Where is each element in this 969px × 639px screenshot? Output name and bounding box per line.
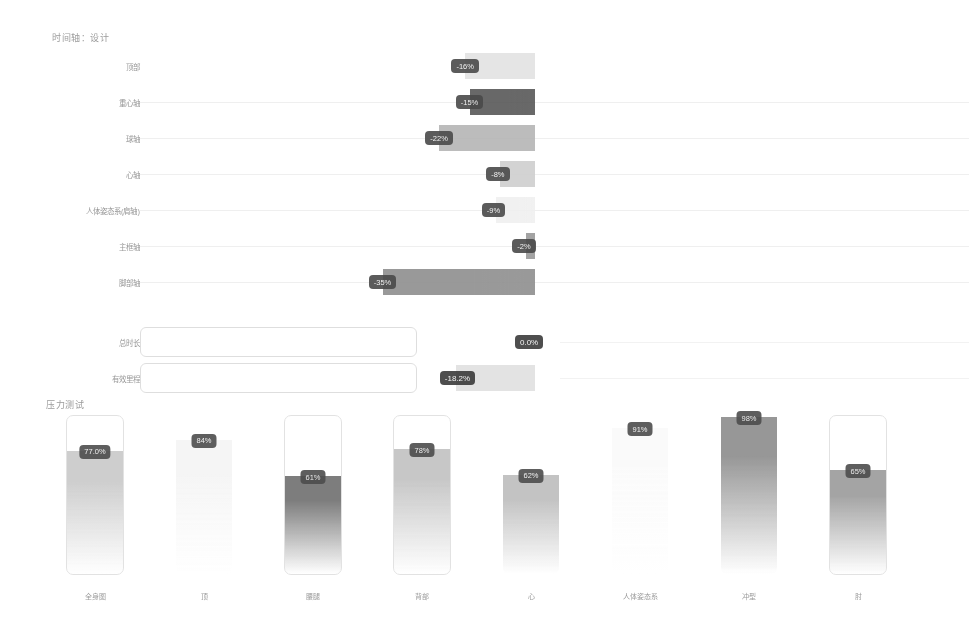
gauge-value-label: 65%	[845, 464, 870, 478]
gauge-value-label: 84%	[191, 434, 216, 448]
bar-category-label: 重心轴	[20, 97, 140, 108]
gauge: 98%冲型	[720, 415, 778, 575]
gridline	[560, 342, 969, 343]
bar-row: 人体姿态系(肩轴)-9%	[0, 192, 969, 228]
gridline	[140, 102, 969, 103]
bar-value-label: -9%	[482, 203, 505, 217]
gauge-category-label: 心	[528, 591, 535, 601]
bar-category-label: 球轴	[20, 133, 140, 144]
gauge-value-label: 77.0%	[79, 445, 110, 459]
top-section-title: 时间轴：设计	[52, 31, 109, 44]
gauge-category-label: 顶	[201, 591, 208, 601]
gauge-value-label: 78%	[409, 443, 434, 457]
gauge-value-label: 62%	[518, 469, 543, 483]
bar-category-label: 人体姿态系(肩轴)	[20, 205, 140, 216]
gauge: 84%顶	[175, 415, 233, 575]
gridline	[140, 174, 969, 175]
gridline	[140, 210, 969, 211]
framed-metric-rows: 总时长0.0%有效里程-18.2%	[0, 325, 969, 395]
bar-value-label: -16%	[451, 59, 479, 73]
gridline	[140, 246, 969, 247]
bar-row: 重心轴-15%	[0, 84, 969, 120]
bar-category-label: 主框轴	[20, 241, 140, 252]
gauge-category-label: 肘	[855, 591, 862, 601]
gauge-category-label: 人体姿态系	[623, 591, 658, 601]
bar-value-label: -22%	[425, 131, 453, 145]
bar-value-label: -2%	[512, 239, 535, 253]
gauge-fill	[67, 451, 123, 574]
metric-input-box[interactable]	[140, 363, 417, 393]
metric-label: 有效里程	[20, 373, 140, 384]
bar-value-label: -8%	[486, 167, 509, 181]
bar-row: 主框轴-2%	[0, 228, 969, 264]
gridline	[140, 138, 969, 139]
gauge: 77.0%全身图	[66, 415, 124, 575]
gauge-category-label: 冲型	[742, 591, 756, 601]
gauge-category-label: 背部	[415, 591, 429, 601]
gauge-fill	[394, 449, 450, 574]
bar-value-label: -35%	[369, 275, 397, 289]
gauge: 62%心	[502, 415, 560, 575]
bar	[439, 125, 535, 151]
gauge-fill	[721, 417, 777, 574]
bar	[383, 269, 535, 295]
gauge-category-label: 腰腿	[306, 591, 320, 601]
bar-row: 球轴-22%	[0, 120, 969, 156]
horizontal-diverging-bar-chart: 顶部-16%重心轴-15%球轴-22%心轴-8%人体姿态系(肩轴)-9%主框轴-…	[0, 48, 969, 303]
framed-metric-row: 总时长0.0%	[0, 325, 969, 359]
framed-metric-row: 有效里程-18.2%	[0, 361, 969, 395]
gauge-fill	[176, 440, 232, 574]
metric-input-box[interactable]	[140, 327, 417, 357]
gauge-fill	[830, 470, 886, 574]
bar-category-label: 顶部	[20, 61, 140, 72]
gauge: 65%肘	[829, 415, 887, 575]
gauge-value-label: 91%	[627, 422, 652, 436]
metric-value-label: 0.0%	[515, 335, 543, 349]
dashboard-canvas: 时间轴：设计 顶部-16%重心轴-15%球轴-22%心轴-8%人体姿态系(肩轴)…	[0, 0, 969, 639]
gauge: 61%腰腿	[284, 415, 342, 575]
gauge-category-label: 全身图	[85, 591, 106, 601]
bar-category-label: 心轴	[20, 169, 140, 180]
gauge-fill	[503, 475, 559, 574]
gauge-fill	[612, 428, 668, 574]
metric-label: 总时长	[20, 337, 140, 348]
bar-category-label: 脚部轴	[20, 277, 140, 288]
gauge: 91%人体姿态系	[611, 415, 669, 575]
gridline	[140, 282, 969, 283]
gridline	[560, 378, 969, 379]
gauge-value-label: 98%	[736, 411, 761, 425]
bar-row: 心轴-8%	[0, 156, 969, 192]
bottom-section-title: 压力测试	[46, 398, 84, 411]
gauge-value-label: 61%	[300, 470, 325, 484]
gauge: 78%背部	[393, 415, 451, 575]
vertical-gauge-chart: 77.0%全身图84%顶61%腰腿78%背部62%心91%人体姿态系98%冲型6…	[0, 415, 969, 615]
bar-row: 脚部轴-35%	[0, 264, 969, 300]
gauge-fill	[285, 476, 341, 574]
bar-row: 顶部-16%	[0, 48, 969, 84]
bar-value-label: -15%	[456, 95, 484, 109]
metric-value-label: -18.2%	[440, 371, 475, 385]
